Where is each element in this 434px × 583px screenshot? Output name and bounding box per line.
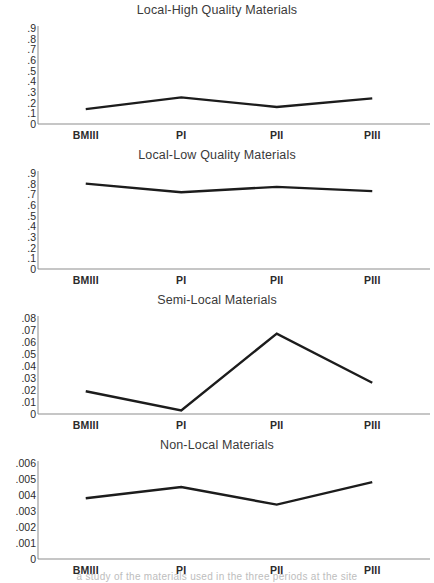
x-axis-tick-labels: BMIIIPIPIIPIII [0,420,434,434]
x-axis-tick: PIII [364,130,381,141]
x-axis-tick: PI [176,130,186,141]
x-axis-tick-labels: BMIIIPIPIIPIII [0,275,434,289]
x-axis-tick: PII [270,130,283,141]
chart-1: Local-High Quality Materials.9.8.7.6.5.4… [0,0,434,145]
x-axis-tick: BMIII [73,130,99,141]
x-axis-tick: PIII [364,275,381,286]
chart-title: Non-Local Materials [0,438,434,452]
chart-3: Semi-Local Materials.08.07.06.05.04.03.0… [0,290,434,435]
plot-area: .08.07.06.05.04.03.02.010BMIIIPIPIIPIII [0,310,434,435]
x-axis-tick: PIII [364,420,381,431]
chart-canvas [0,165,434,290]
chart-canvas [0,310,434,435]
data-series-line [86,482,373,504]
chart-canvas [0,20,434,145]
chart-title: Semi-Local Materials [0,293,434,307]
chart-4: Non-Local Materials.006.005004.003.002.0… [0,435,434,580]
x-axis-tick: PI [176,275,186,286]
chart-canvas [0,455,434,580]
data-series-line [86,97,373,109]
plot-area: .9.8.7.6.5.4.3.2.10BMIIIPIPIIPIII [0,20,434,145]
chart-stack: Local-High Quality Materials.9.8.7.6.5.4… [0,0,434,580]
chart-title: Local-High Quality Materials [0,3,434,17]
page-footer-text: a study of the materials used in the thr… [0,571,434,583]
x-axis-tick: BMIII [73,420,99,431]
plot-area: .9.8.7.6.5.4.3.2.10BMIIIPIPIIPIII [0,165,434,290]
chart-2: Local-Low Quality Materials.9.8.7.6.5.4.… [0,145,434,290]
x-axis-tick-labels: BMIIIPIPIIPIII [0,130,434,144]
x-axis-tick: BMIII [73,275,99,286]
x-axis-tick: PII [270,420,283,431]
data-series-line [86,334,373,411]
data-series-line [86,184,373,193]
chart-title: Local-Low Quality Materials [0,148,434,162]
x-axis-tick: PI [176,420,186,431]
plot-area: .006.005004.003.002.0010BMIIIPIPIIPIII [0,455,434,580]
x-axis-tick: PII [270,275,283,286]
